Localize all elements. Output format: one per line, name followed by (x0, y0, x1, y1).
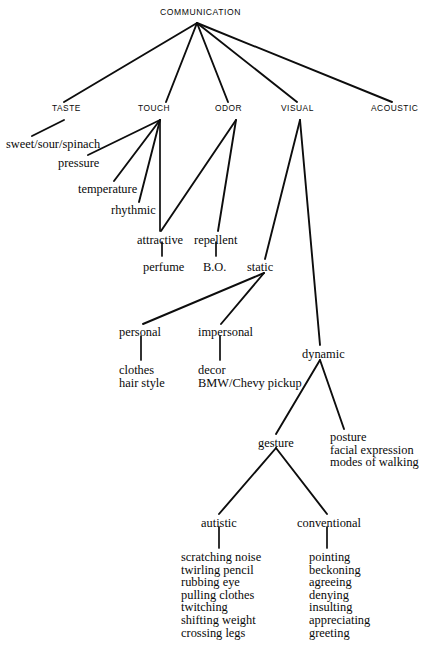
node-sweet-sour-spinach-label: sweet/sour/spinach (6, 137, 100, 151)
leaf-item: clothes (119, 364, 165, 377)
leaf-item: decor (198, 364, 302, 377)
node-bo: B.O. (203, 261, 226, 274)
node-sweet-sour-spinach: sweet/sour/spinach (6, 138, 100, 151)
edge-dynamic-to-posture-leaves (320, 360, 344, 429)
leaf-item: pointing (309, 551, 370, 564)
node-taste: TASTE (52, 104, 81, 113)
node-perfume-label: perfume (143, 260, 184, 274)
leaf-item: crossing legs (181, 627, 261, 640)
node-attractive-label: attractive (137, 233, 183, 247)
edge-odor-to-repellent (218, 120, 236, 231)
node-taste-label: TASTE (52, 103, 81, 113)
node-pressure: pressure (58, 157, 99, 170)
edge-touch-to-rhythmic (139, 120, 160, 202)
node-personal-label: personal (119, 325, 161, 339)
leaf-item: greeting (309, 627, 370, 640)
edge-visual-to-dynamic (300, 120, 320, 345)
node-rhythmic-label: rhythmic (111, 203, 156, 217)
leaf-list-posture: posturefacial expressionmodes of walking (330, 431, 419, 469)
edge-gesture-to-conventional (276, 448, 327, 514)
node-acoustic-label: ACOUSTIC (371, 103, 418, 113)
node-impersonal: impersonal (198, 326, 253, 339)
node-temperature-label: temperature (78, 182, 137, 196)
node-rhythmic: rhythmic (111, 204, 156, 217)
node-attractive: attractive (137, 234, 183, 247)
node-conventional: conventional (297, 517, 361, 530)
node-impersonal-label: impersonal (198, 325, 253, 339)
leaf-item: BMW/Chevy pickup (198, 377, 302, 390)
leaf-list-personal: clotheshair style (119, 364, 165, 389)
edge-root-to-acoustic (197, 23, 392, 102)
node-gesture: gesture (258, 437, 294, 450)
node-temperature: temperature (78, 183, 137, 196)
edge-gesture-to-autistic (219, 448, 276, 514)
node-touch: TOUCH (138, 104, 170, 113)
leaf-list-conventional: pointingbeckoningagreeingdenyinginsultin… (309, 551, 370, 639)
node-dynamic-label: dynamic (302, 347, 345, 361)
leaf-item: agreeing (309, 576, 370, 589)
node-repellent-label: repellent (194, 233, 237, 247)
node-touch-label: TOUCH (138, 103, 170, 113)
leaf-item: rubbing eye (181, 576, 261, 589)
node-pressure-label: pressure (58, 156, 99, 170)
leaf-list-autistic: scratching noisetwirling pencilrubbing e… (181, 551, 261, 639)
node-bo-label: B.O. (203, 260, 226, 274)
node-conventional-label: conventional (297, 516, 361, 530)
node-static-label: static (247, 260, 273, 274)
node-autistic: autistic (201, 517, 237, 530)
node-perfume: perfume (143, 261, 184, 274)
leaf-item: modes of walking (330, 456, 419, 469)
node-personal: personal (119, 326, 161, 339)
edge-static-to-impersonal (221, 273, 264, 324)
leaf-item: hair style (119, 377, 165, 390)
node-visual-label: VISUAL (281, 103, 314, 113)
node-repellent: repellent (194, 234, 237, 247)
leaf-item: appreciating (309, 614, 370, 627)
node-odor-label: ODOR (215, 103, 242, 113)
leaf-list-impersonal: decorBMW/Chevy pickup (198, 364, 302, 389)
node-acoustic: ACOUSTIC (371, 104, 418, 113)
node-visual: VISUAL (281, 104, 314, 113)
edge-taste-to-sweet-sour-spinach (32, 120, 64, 136)
edge-static-to-personal (143, 273, 264, 324)
edge-odor-to-attractive (161, 120, 236, 231)
edge-root-to-taste (64, 23, 197, 102)
edge-visual-to-static (265, 120, 300, 259)
node-static: static (247, 261, 273, 274)
leaf-item: posture (330, 431, 419, 444)
node-autistic-label: autistic (201, 516, 237, 530)
edge-root-to-touch (166, 23, 197, 102)
communication-tree-diagram: COMMUNICATION TASTE TOUCH ODOR VISUAL AC… (0, 0, 425, 658)
node-dynamic: dynamic (302, 348, 345, 361)
node-communication: COMMUNICATION (160, 8, 241, 17)
node-odor: ODOR (215, 104, 242, 113)
node-communication-label: COMMUNICATION (160, 7, 241, 17)
leaf-item: shifting weight (181, 614, 261, 627)
leaf-item: scratching noise (181, 551, 261, 564)
node-gesture-label: gesture (258, 436, 294, 450)
